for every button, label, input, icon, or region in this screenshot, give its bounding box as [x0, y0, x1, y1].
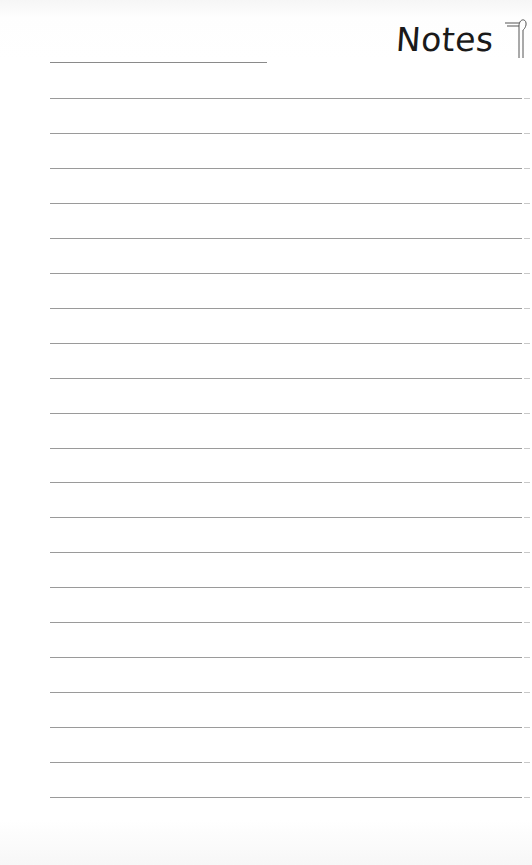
- ruled-line: [50, 273, 522, 274]
- name-line: [50, 62, 267, 63]
- ruled-line: [50, 413, 522, 414]
- ruled-line: [50, 587, 522, 588]
- ruled-line: [50, 727, 522, 728]
- ruled-line: [50, 517, 522, 518]
- ruled-line: [50, 692, 522, 693]
- pen-nib-logo-icon: [505, 16, 529, 64]
- ruled-line: [50, 133, 522, 134]
- ruled-line: [50, 797, 522, 798]
- ruled-line: [50, 308, 522, 309]
- ruled-line: [50, 762, 522, 763]
- ruled-line: [50, 343, 522, 344]
- page-title: Notes: [395, 20, 496, 59]
- ruled-line: [50, 238, 522, 239]
- ruled-line: [50, 203, 522, 204]
- ruled-line: [50, 448, 522, 449]
- ruled-line: [50, 657, 522, 658]
- ruled-line: [50, 98, 522, 99]
- ruled-line: [50, 622, 522, 623]
- ruled-line: [50, 378, 522, 379]
- notes-page: Notes: [0, 0, 532, 865]
- ruled-line: [50, 168, 522, 169]
- ruled-line: [50, 552, 522, 553]
- ruled-line: [50, 482, 522, 483]
